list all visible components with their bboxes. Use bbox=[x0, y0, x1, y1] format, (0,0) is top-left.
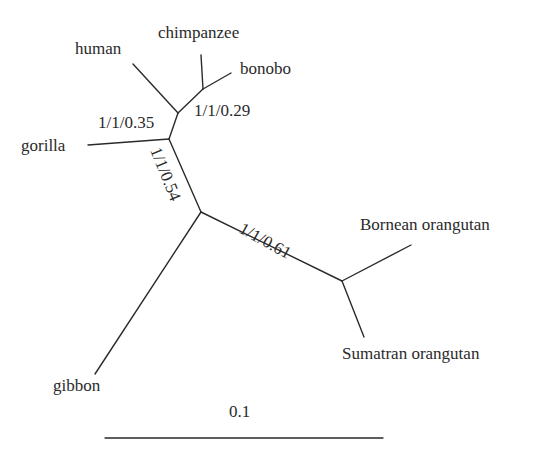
support-label-african-apes: 1/1/0.54 bbox=[146, 144, 185, 204]
leaf-label-chimpanzee: chimpanzee bbox=[158, 23, 239, 42]
branch-sumatran bbox=[342, 281, 364, 337]
leaf-label-gorilla: gorilla bbox=[21, 136, 66, 155]
leaf-label-bornean-orangutan: Bornean orangutan bbox=[360, 215, 490, 234]
branch-chimpanzee bbox=[201, 55, 203, 89]
leaf-label-gibbon: gibbon bbox=[53, 376, 101, 395]
support-label-chimp-bonobo: 1/1/0.29 bbox=[194, 101, 250, 120]
phylogenetic-tree: human chimpanzee bonobo gorilla Bornean … bbox=[0, 0, 546, 457]
leaf-label-bonobo: bonobo bbox=[240, 59, 291, 78]
branch-bornean bbox=[342, 245, 411, 281]
leaf-label-sumatran-orangutan: Sumatran orangutan bbox=[342, 344, 480, 363]
branch-gorilla bbox=[88, 139, 169, 145]
branch-human bbox=[133, 64, 178, 113]
support-label-human-chimp-bonobo: 1/1/0.35 bbox=[98, 113, 154, 132]
scale-bar: 0.1 bbox=[105, 402, 383, 438]
leaf-label-human: human bbox=[75, 39, 122, 58]
support-values: 1/1/0.29 1/1/0.35 1/1/0.54 1/1/0.61 bbox=[98, 101, 294, 263]
branch-hcb-to-gorilla-node bbox=[169, 113, 178, 139]
scale-bar-label: 0.1 bbox=[229, 402, 250, 421]
leaf-labels: human chimpanzee bonobo gorilla Bornean … bbox=[21, 23, 490, 395]
support-label-orangutans: 1/1/0.61 bbox=[236, 219, 294, 263]
branch-bonobo bbox=[203, 73, 231, 89]
branch-gibbon bbox=[95, 212, 201, 374]
